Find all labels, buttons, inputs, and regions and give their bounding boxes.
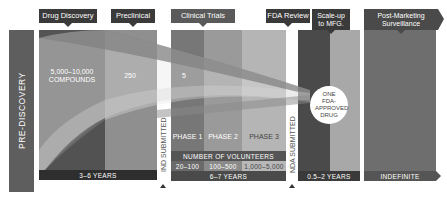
nda-submitted-label: NDA SUBMITTED: [286, 110, 298, 180]
duration-post-marketing: INDEFINITE: [364, 171, 436, 181]
phase1-label: PHASE 1: [171, 133, 204, 141]
header-fda-review-label: FDA Review: [267, 12, 308, 20]
header-scale-up: Scale-up to MFG.: [312, 9, 350, 30]
header-post-marketing-label: Post-Marketing Surveillance: [368, 12, 434, 27]
compounds-count: 5,000–10,000 COMPOUNDS: [44, 68, 100, 84]
duration-scaleup: 0.5–2 YEARS: [298, 171, 360, 181]
header-preclinical-label: Preclinical: [116, 12, 150, 20]
preclinical-count: 250: [110, 72, 150, 80]
pointer-icon: [327, 30, 335, 34]
duration-clinical: 6–7 YEARS: [171, 171, 286, 181]
clinical-count: 5: [178, 72, 190, 80]
pointer-icon: [64, 23, 72, 27]
header-post-marketing: Post-Marketing Surveillance: [364, 9, 438, 30]
volunteers-range-phase1: 20–100: [171, 161, 204, 171]
header-clinical-trials-label: Clinical Trials: [181, 12, 225, 20]
duration-discovery: 3–6 YEARS: [39, 170, 157, 180]
header-preclinical: Preclinical: [111, 9, 155, 23]
pointer-icon: [284, 23, 292, 27]
phase3-label: PHASE 3: [242, 133, 286, 141]
arrow-icon: [438, 9, 444, 30]
nda-marker-icon: [289, 184, 295, 188]
approved-drug-label: ONE FDA-APPROVED DRUG: [315, 91, 343, 119]
phase2-label: PHASE 2: [204, 133, 242, 141]
header-scale-up-label: Scale-up to MFG.: [314, 12, 348, 27]
header-clinical-trials: Clinical Trials: [171, 9, 235, 23]
header-fda-review: FDA Review: [266, 9, 310, 23]
pointer-icon: [129, 23, 137, 27]
header-drug-discovery: Drug Discovery: [39, 9, 97, 23]
ind-marker-icon: [160, 184, 166, 188]
volunteers-range-phase2: 100–500: [204, 161, 242, 171]
ind-submitted-label: IND SUBMITTED: [157, 110, 169, 180]
volunteers-range-phase3: 1,000–5,000: [242, 161, 286, 171]
volunteers-title: NUMBER OF VOLUNTEERS: [171, 151, 286, 161]
approved-drug-circle: ONE FDA-APPROVED DRUG: [310, 86, 348, 124]
pointer-icon: [397, 30, 405, 34]
header-drug-discovery-label: Drug Discovery: [42, 12, 93, 20]
pointer-icon: [199, 23, 207, 27]
arrow-icon: [436, 171, 441, 181]
